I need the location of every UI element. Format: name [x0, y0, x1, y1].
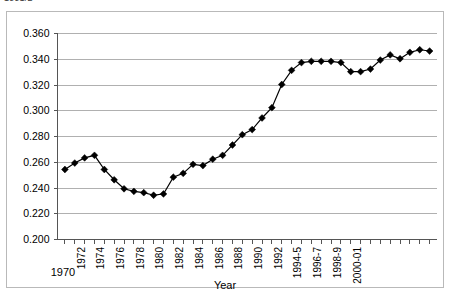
x-axis-tick-label: 1990 — [253, 247, 264, 270]
data-point-marker — [397, 55, 404, 62]
y-axis-labels-group: 0.2000.2200.2400.2600.2800.3000.3200.340… — [23, 27, 49, 245]
y-axis-tick-label: 0.280 — [23, 130, 49, 142]
data-point-marker — [61, 166, 68, 173]
x-axis-tick-label: 1970 — [51, 266, 75, 278]
x-axis-tick-label: 1994-5 — [292, 247, 303, 279]
x-axis-tick-label: 1996-7 — [312, 247, 323, 279]
data-point-marker — [387, 51, 394, 58]
y-axis-tick-label: 0.240 — [23, 182, 49, 194]
line-chart-svg: 0.2000.2200.2400.2600.2800.3000.3200.340… — [0, 0, 451, 300]
x-axis-tick-label: 1982 — [174, 247, 185, 270]
data-point-marker — [357, 68, 364, 75]
x-axis-title: Year — [214, 279, 237, 291]
y-axis-tick-label: 0.360 — [23, 27, 49, 39]
data-point-marker — [150, 192, 157, 199]
data-point-marker — [81, 154, 88, 161]
data-point-marker — [406, 49, 413, 56]
y-axis-tick-label: 0.200 — [23, 233, 49, 245]
x-axis-tick-label: 1974 — [95, 247, 106, 270]
data-point-marker — [209, 156, 216, 163]
x-axis-tick-label: 1988 — [233, 247, 244, 270]
x-axis-tick-label: 1978 — [135, 247, 146, 270]
x-axis-tick-label: 1980 — [154, 247, 165, 270]
data-point-marker — [160, 191, 167, 198]
data-point-marker — [199, 162, 206, 169]
y-axis-tick-label: 0.220 — [23, 207, 49, 219]
data-point-marker — [426, 48, 433, 55]
x-axis-tick-label: 1984 — [194, 247, 205, 270]
x-axis-labels-group: 1970197219741976197819801982198419861988… — [51, 247, 363, 284]
y-axis-tick-label: 0.320 — [23, 79, 49, 91]
y-axis-tick-label: 0.300 — [23, 104, 49, 116]
y-axis-tick-label: 0.260 — [23, 156, 49, 168]
x-axis-tick-label: 2000-01 — [352, 247, 363, 284]
data-point-marker — [140, 189, 147, 196]
x-axis-tick-label: 1986 — [214, 247, 225, 270]
data-point-marker — [71, 160, 78, 167]
x-axis-tick-label: 1998-9 — [332, 247, 343, 279]
data-point-marker — [416, 46, 423, 53]
x-axis-tick-label: 1976 — [115, 247, 126, 270]
chart-figure: 1991/2 0.2000.2200.2400.2600.2800.3000.3… — [0, 0, 451, 300]
y-axis-ticks-group — [54, 34, 58, 240]
data-point-marker — [170, 174, 177, 181]
data-point-marker — [130, 188, 137, 195]
x-axis-tick-label: 1992 — [273, 247, 284, 270]
y-axis-tick-label: 0.340 — [23, 53, 49, 65]
data-series-line — [65, 50, 430, 195]
data-series-markers-group — [61, 46, 433, 198]
x-axis-tick-label: 1972 — [76, 247, 87, 270]
